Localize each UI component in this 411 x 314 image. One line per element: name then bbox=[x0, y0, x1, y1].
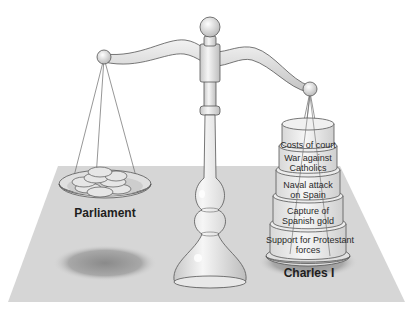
weight-label-war-catholics: War against Catholics bbox=[278, 153, 338, 173]
weight-label-line: Catholics bbox=[278, 163, 338, 173]
weight-label-naval-attack: Naval attack on Spain bbox=[278, 180, 338, 200]
collar bbox=[200, 106, 220, 115]
top-finial-ball bbox=[200, 17, 220, 37]
parliament-label: Parliament bbox=[62, 206, 148, 220]
left-strings bbox=[72, 58, 138, 184]
pivot-block bbox=[200, 44, 220, 82]
weight-label-support-protestant: Support for Protestant forces bbox=[266, 235, 350, 255]
weight-label-line: on Spain bbox=[278, 190, 338, 200]
weight-label-line: War against bbox=[278, 153, 338, 163]
weight-label-capture-gold: Capture of Spanish gold bbox=[278, 206, 338, 226]
left-shadow bbox=[53, 245, 157, 281]
weight-label-line: Naval attack bbox=[278, 180, 338, 190]
weight-label-line: forces bbox=[266, 245, 350, 255]
left-beam-ball bbox=[97, 50, 111, 64]
weight-label-costs-of-court: Costs of court bbox=[278, 140, 338, 150]
weight-label-line: Capture of bbox=[278, 206, 338, 216]
right-beam-ball bbox=[303, 82, 317, 96]
weight-label-line: Spanish gold bbox=[278, 216, 338, 226]
charles-i-label: Charles I bbox=[266, 266, 352, 280]
weight-label-line: Support for Protestant bbox=[266, 235, 350, 245]
balance-scale-diagram: Parliament Charles I Costs of court War … bbox=[0, 0, 411, 314]
